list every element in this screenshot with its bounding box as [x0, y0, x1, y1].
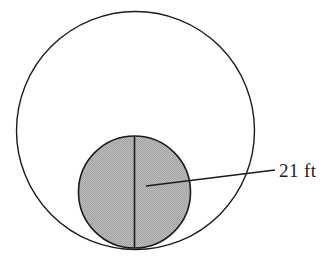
radius-dimension-label: 21 ft [279, 160, 317, 181]
geometry-figure-canvas: 21 ft [0, 0, 336, 267]
geometry-figure-container: 21 ft [0, 0, 336, 267]
